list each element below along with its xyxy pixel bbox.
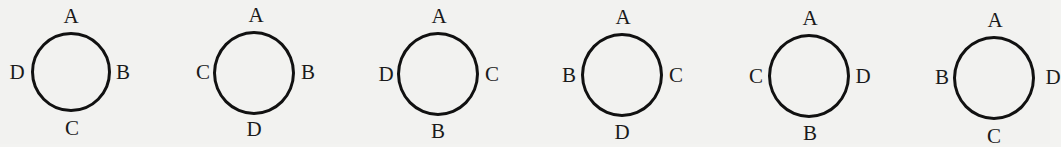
circle-1-label-right: B	[116, 62, 130, 83]
circle-4-label-right: C	[669, 65, 683, 86]
circle-6	[953, 36, 1035, 120]
circle-1-label-bottom: C	[65, 118, 79, 139]
circle-6-label-right: D	[1045, 67, 1060, 88]
circle-2-label-right: B	[301, 62, 315, 83]
circle-2-label-bottom: D	[246, 119, 261, 140]
circle-6-label-top: A	[987, 10, 1002, 31]
circle-5-label-bottom: B	[803, 123, 817, 144]
circle-1	[31, 32, 111, 112]
circle-4-label-top: A	[615, 7, 630, 28]
circle-4-label-bottom: D	[614, 122, 629, 143]
circle-1-label-top: A	[63, 6, 78, 27]
circle-6-label-left: B	[935, 67, 949, 88]
circle-5-label-left: C	[749, 66, 763, 87]
circle-6-label-bottom: C	[987, 126, 1001, 147]
circle-3-label-right: C	[485, 64, 499, 85]
circle-3-label-bottom: B	[431, 121, 445, 142]
circle-diagram-figure: A B C D A B D C A C B D A C D B A D B C …	[0, 0, 1050, 144]
circle-5	[768, 34, 850, 118]
circle-4-label-left: B	[562, 65, 576, 86]
circle-4	[581, 33, 663, 117]
circle-5-label-right: D	[855, 66, 870, 87]
circle-5-label-top: A	[802, 8, 817, 29]
circle-2-label-left: C	[196, 62, 210, 83]
circle-2-label-top: A	[248, 5, 263, 26]
circle-3-label-left: D	[378, 64, 393, 85]
circle-1-label-left: D	[9, 62, 24, 83]
circle-3	[397, 32, 479, 116]
circle-2	[213, 31, 295, 115]
circle-3-label-top: A	[431, 6, 446, 27]
